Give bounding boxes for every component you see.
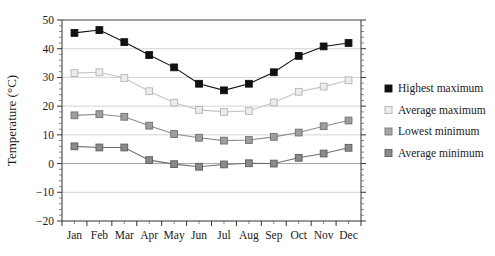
data-point: Lowest minimum — Jul: 8°C bbox=[221, 137, 228, 144]
data-point: Average maximum — Jun: 18.7°C bbox=[196, 106, 203, 113]
legend-swatch bbox=[385, 150, 392, 157]
legend-item-average-maximum: Average maximum bbox=[385, 104, 486, 117]
y-axis-tick-labels: 50403020100−10−20 bbox=[36, 14, 54, 227]
data-point: Average minimum — Apr: 1.2°C bbox=[146, 157, 153, 164]
data-point: Lowest minimum — Nov: 13°C bbox=[320, 123, 327, 130]
y-tick-label: 10 bbox=[43, 129, 55, 141]
y-tick-label: −10 bbox=[36, 186, 54, 198]
data-point: Highest maximum — Apr: 37.8°C bbox=[146, 52, 153, 59]
data-point: Average maximum — Mar: 29.8°C bbox=[121, 75, 128, 82]
data-point: Highest maximum — Jun: 27.8°C bbox=[196, 80, 203, 87]
x-axis-ticks bbox=[62, 221, 361, 226]
data-point: Average maximum — Nov: 26.8°C bbox=[320, 83, 327, 90]
data-point: Lowest minimum — Sep: 9.3°C bbox=[270, 133, 277, 140]
data-point: Highest maximum — Sep: 31.8°C bbox=[270, 69, 277, 76]
chart-figure: 50403020100−10−20JanFebMarAprMayJunJulAu… bbox=[0, 0, 495, 256]
x-tick-label-dec: Dec bbox=[339, 229, 358, 241]
data-point: Lowest minimum — Dec: 15°C bbox=[345, 117, 352, 124]
x-tick-label-apr: Apr bbox=[140, 229, 158, 242]
data-point: Highest maximum — Oct: 37.5°C bbox=[295, 52, 302, 59]
data-point: Average maximum — May: 21.2°C bbox=[171, 99, 178, 106]
legend: Highest maximumAverage maximumLowest min… bbox=[385, 82, 486, 160]
data-point: Average minimum — May: -0.2°C bbox=[171, 161, 178, 168]
data-point: Average maximum — Apr: 25.2°C bbox=[146, 88, 153, 95]
series-line bbox=[74, 114, 348, 140]
data-point: Lowest minimum — May: 10.3°C bbox=[171, 131, 178, 138]
series-highest-maximum: Highest maximum — Jan: 45.5°CHighest max… bbox=[71, 27, 352, 94]
x-tick-label-jan: Jan bbox=[67, 229, 83, 241]
data-point: Average maximum — Jul: 18°C bbox=[221, 108, 228, 115]
axis-frame bbox=[62, 20, 361, 221]
legend-label: Lowest minimum bbox=[398, 125, 480, 137]
data-point: Average maximum — Jan: 31.5°C bbox=[71, 70, 78, 77]
y-tick-label: 50 bbox=[43, 14, 55, 26]
legend-item-average-minimum: Average minimum bbox=[385, 147, 484, 160]
series-lowest-minimum: Lowest minimum — Jan: 16.8°CLowest minim… bbox=[71, 111, 352, 144]
data-point: Average maximum — Dec: 29°C bbox=[345, 77, 352, 84]
data-point: Average minimum — Feb: 5.6°C bbox=[96, 144, 103, 151]
data-point: Average minimum — Jun: -1.1°C bbox=[196, 163, 203, 170]
y-tick-label: 0 bbox=[48, 158, 54, 170]
y-tick-label: 30 bbox=[43, 71, 55, 83]
data-point: Highest maximum — Jul: 25.5°C bbox=[221, 87, 228, 94]
y-tick-label: −20 bbox=[36, 215, 54, 227]
x-tick-label-feb: Feb bbox=[91, 229, 109, 241]
data-point: Average minimum — Nov: 3.5°C bbox=[320, 150, 327, 157]
data-point: Lowest minimum — Aug: 8.2°C bbox=[245, 137, 252, 144]
legend-swatch bbox=[385, 128, 392, 135]
legend-label: Average minimum bbox=[398, 147, 484, 160]
data-point: Average maximum — Oct: 25°C bbox=[295, 88, 302, 95]
data-point: Highest maximum — Jan: 45.5°C bbox=[71, 30, 78, 37]
data-point: Lowest minimum — Mar: 16.3°C bbox=[121, 113, 128, 120]
data-point: Average minimum — Mar: 5.6°C bbox=[121, 144, 128, 151]
data-point: Average maximum — Sep: 21.3°C bbox=[270, 99, 277, 106]
data-point: Highest maximum — Dec: 42°C bbox=[345, 40, 352, 47]
data-point: Highest maximum — Feb: 46.5°C bbox=[96, 27, 103, 34]
legend-swatch bbox=[385, 107, 392, 114]
data-point: Lowest minimum — Jun: 9°C bbox=[196, 134, 203, 141]
legend-label: Highest maximum bbox=[398, 82, 483, 95]
data-point: Average minimum — Dec: 5.5°C bbox=[345, 144, 352, 151]
x-tick-label-jul: Jul bbox=[217, 229, 230, 241]
data-point: Average minimum — Sep: 0°C bbox=[270, 160, 277, 167]
data-point: Average minimum — Jan: 6°C bbox=[71, 143, 78, 150]
series-line bbox=[74, 30, 348, 90]
x-tick-label-sep: Sep bbox=[265, 229, 283, 242]
x-tick-label-jun: Jun bbox=[191, 229, 207, 241]
legend-swatch bbox=[385, 85, 392, 92]
data-point: Average minimum — Oct: 2°C bbox=[295, 154, 302, 161]
legend-item-highest-maximum: Highest maximum bbox=[385, 82, 483, 95]
data-point: Lowest minimum — Oct: 10.8°C bbox=[295, 129, 302, 136]
legend-label: Average maximum bbox=[398, 104, 486, 117]
data-point: Highest maximum — Mar: 42.3°C bbox=[121, 39, 128, 46]
x-tick-label-aug: Aug bbox=[239, 229, 259, 242]
data-point: Highest maximum — Aug: 27.8°C bbox=[245, 80, 252, 87]
data-point: Highest maximum — May: 33.5°C bbox=[171, 64, 178, 71]
y-tick-label: 20 bbox=[43, 100, 55, 112]
x-tick-label-oct: Oct bbox=[290, 229, 307, 241]
data-point: Lowest minimum — Jan: 16.8°C bbox=[71, 112, 78, 119]
temperature-line-chart: 50403020100−10−20JanFebMarAprMayJunJulAu… bbox=[0, 0, 495, 256]
data-point: Average maximum — Aug: 18.3°C bbox=[245, 108, 252, 115]
series-average-maximum: Average maximum — Jan: 31.5°CAverage max… bbox=[71, 69, 352, 115]
data-point: Average maximum — Feb: 31.8°C bbox=[96, 69, 103, 76]
data-point: Average minimum — Aug: 0.1°C bbox=[245, 160, 252, 167]
y-axis-title: Temperature (°C) bbox=[4, 75, 19, 166]
gridlines bbox=[62, 20, 361, 192]
y-tick-label: 40 bbox=[43, 43, 55, 55]
x-tick-label-mar: Mar bbox=[115, 229, 134, 241]
data-point: Lowest minimum — Apr: 13.2°C bbox=[146, 122, 153, 129]
x-tick-label-may: May bbox=[164, 229, 185, 242]
y-axis-ticks bbox=[57, 20, 366, 221]
data-point: Highest maximum — Nov: 40.8°C bbox=[320, 43, 327, 50]
x-axis-tick-labels: JanFebMarAprMayJunJulAugSepOctNovDec bbox=[67, 229, 358, 242]
series-average-minimum: Average minimum — Jan: 6°CAverage minimu… bbox=[71, 143, 352, 170]
legend-item-lowest-minimum: Lowest minimum bbox=[385, 125, 480, 137]
data-point: Average minimum — Jul: -0.3°C bbox=[221, 161, 228, 168]
x-tick-label-nov: Nov bbox=[314, 229, 334, 241]
data-point: Lowest minimum — Feb: 17.2°C bbox=[96, 111, 103, 118]
